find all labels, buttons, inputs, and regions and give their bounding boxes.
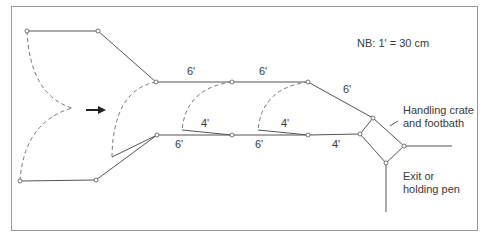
top-left-wing-rail [27,31,156,82]
swing-gate-4ft-1 [182,130,232,135]
label-crate-line2: and footbath [403,117,464,130]
hinge-nodes [18,29,406,183]
dim-gate-1: 4' [201,117,209,130]
label-exit-line1: Exit or [403,170,434,183]
top-race-rail [156,82,373,118]
handling-crate [360,118,404,163]
dim-bottom-rail-1: 6' [175,138,183,151]
dim-gate-2: 4' [281,117,289,130]
crate-leader-line [390,121,398,126]
swing-gate-4ft-2 [258,130,308,135]
dim-top-diagonal: 6' [343,83,351,96]
dashed-arc-top-wing [27,31,72,108]
flow-arrow-icon [86,106,106,114]
bottom-race-rail [157,134,360,135]
dashed-arc-bottom-wing [20,108,72,181]
scale-note: NB: 1' = 30 cm [357,37,429,50]
label-exit-line2: holding pen [403,183,460,196]
dim-top-rail-1: 6' [187,65,195,78]
dim-top-rail-2: 6' [259,65,267,78]
swing-gate-a [112,135,157,157]
dim-bottom-rail-3: 4' [332,138,340,151]
bottom-left-wing-rail [20,135,157,181]
dim-bottom-rail-2: 6' [255,138,263,151]
label-crate-line1: Handling crate [403,104,474,117]
